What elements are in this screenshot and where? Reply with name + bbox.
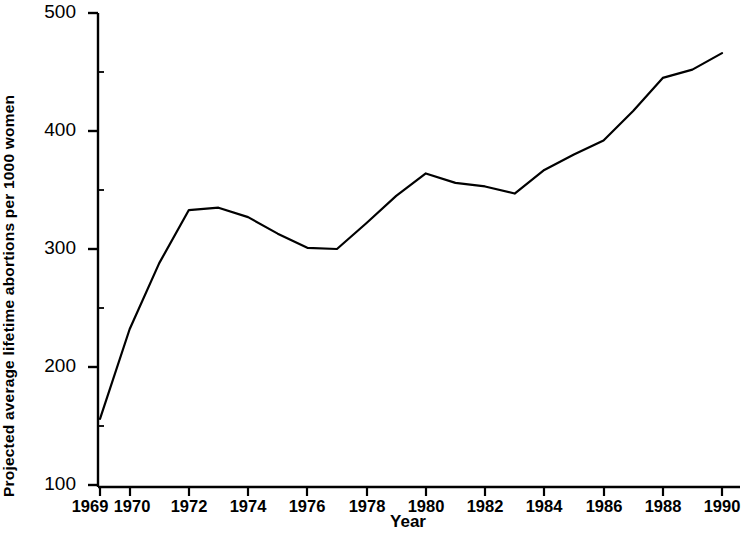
x-tick-label-1974: 1974: [220, 497, 276, 516]
x-tick-label-1978: 1978: [339, 497, 395, 516]
x-tick-label-1986: 1986: [576, 497, 632, 516]
x-axis-ticks: [100, 487, 722, 496]
x-tick-label-1982: 1982: [457, 497, 513, 516]
y-tick-label-300: 300: [22, 237, 76, 259]
y-tick-label-200: 200: [22, 355, 76, 377]
x-tick-label-1972: 1972: [161, 497, 217, 516]
x-tick-label-1970: 1970: [104, 497, 160, 516]
y-axis-ticks: [88, 13, 98, 485]
chart-figure: Projected average lifetime abortions per…: [0, 0, 755, 533]
x-tick-label-1976: 1976: [279, 497, 335, 516]
plot-area: [0, 0, 755, 533]
x-tick-label-1984: 1984: [516, 497, 572, 516]
x-tick-label-1990: 1990: [694, 497, 750, 516]
y-tick-label-500: 500: [22, 1, 76, 23]
x-tick-label-1988: 1988: [635, 497, 691, 516]
x-tick-label-1980: 1980: [398, 497, 454, 516]
y-tick-label-100: 100: [22, 473, 76, 495]
y-tick-label-400: 400: [22, 119, 76, 141]
data-series-line: [100, 53, 722, 419]
